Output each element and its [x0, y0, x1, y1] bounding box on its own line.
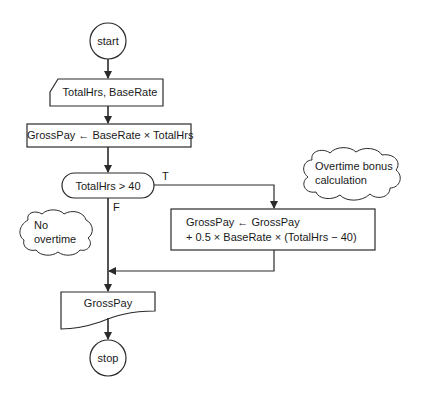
output-label: GrossPay — [61, 296, 155, 310]
overtime-process-line2: + 0.5 × BaseRate × (TotalHrs − 40) — [186, 230, 357, 244]
comment-overtime-line1: Overtime bonus — [315, 159, 393, 173]
process-label-grosspay: GrossPay ← BaseRate × TotalHrs — [27, 128, 191, 142]
comment-overtime-line2: calculation — [315, 173, 367, 187]
comment-no-overtime-line2: overtime — [34, 232, 76, 246]
overtime-process-line1: GrossPay ← GrossPay — [186, 215, 300, 229]
stop-label: stop — [90, 351, 126, 365]
true-branch-line — [154, 185, 274, 208]
decision-label: TotalHrs > 40 — [62, 179, 154, 193]
true-branch-label: T — [162, 169, 169, 183]
start-label: start — [90, 34, 126, 48]
merge-line — [109, 250, 274, 271]
input-label: TotalHrs, BaseRate — [55, 85, 165, 99]
false-branch-label: F — [113, 200, 120, 214]
flowchart-canvas — [0, 0, 423, 402]
comment-no-overtime-line1: No — [34, 218, 48, 232]
